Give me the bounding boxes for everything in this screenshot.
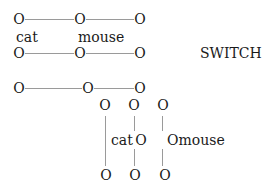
node-r1-2: O	[74, 12, 85, 26]
edge-v3-top	[162, 116, 163, 131]
edge-r1-b	[86, 19, 134, 20]
edge-r3-a	[25, 88, 82, 89]
edge-v3-bottom	[162, 149, 163, 166]
node-r3-3: O	[134, 81, 145, 95]
node-r2-2: O	[74, 46, 85, 60]
node-r2-1: O	[13, 46, 24, 60]
node-r1-1: O	[13, 12, 24, 26]
label-cat: cat	[16, 30, 38, 44]
edge-v1	[105, 116, 106, 166]
switch-label: SWITCH	[200, 46, 262, 60]
node-r3-2: O	[82, 81, 93, 95]
edge-r2-a	[25, 53, 74, 54]
node-v1-top: O	[99, 98, 110, 112]
label-cat-vertical: cat	[111, 133, 133, 147]
edge-r1-a	[25, 19, 74, 20]
node-r2-3: O	[134, 46, 145, 60]
node-v2-mid: O	[135, 133, 146, 147]
edge-r2-b	[86, 53, 134, 54]
edge-r3-b	[94, 88, 134, 89]
label-omouse: Omouse	[167, 133, 225, 147]
node-r3-1: O	[13, 81, 24, 95]
node-v3-bottom: O	[159, 168, 170, 182]
node-v2-bottom: O	[129, 168, 140, 182]
edge-v2-bottom	[134, 149, 135, 166]
edge-v2-top	[134, 116, 135, 131]
label-mouse: mouse	[78, 30, 124, 44]
node-v3-top: O	[157, 98, 168, 112]
node-r1-3: O	[134, 12, 145, 26]
node-v2-top: O	[128, 98, 139, 112]
node-v1-bottom: O	[100, 168, 111, 182]
